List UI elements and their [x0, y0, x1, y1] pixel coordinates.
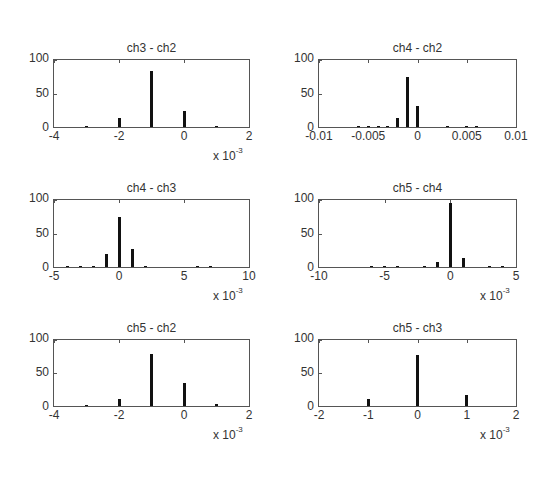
x-tick-mark: [184, 200, 185, 203]
exponent-power: -3: [236, 146, 243, 155]
x-tick-label: -10: [310, 269, 327, 283]
y-tick-mark: [54, 373, 57, 374]
histogram-bar: [406, 77, 409, 127]
x-tick-label: 0.01: [504, 129, 527, 143]
x-tick-label: 0: [181, 129, 188, 143]
x-tick-mark: [516, 340, 517, 343]
histogram-bar: [183, 111, 186, 127]
x-tick-mark: [368, 60, 369, 63]
histogram-bar: [92, 266, 95, 267]
x-tick-label: 0: [447, 269, 454, 283]
exponent-base: x 10: [213, 149, 236, 163]
histogram-bar: [66, 266, 69, 267]
histogram-bar: [85, 405, 88, 406]
x-tick-mark: [119, 200, 120, 203]
y-tick-mark: [54, 234, 57, 235]
y-tick-label: 100: [284, 331, 314, 345]
histogram-bar: [150, 354, 153, 406]
x-tick-label: 10: [242, 269, 255, 283]
histogram-bar: [196, 266, 199, 267]
x-tick-mark: [467, 60, 468, 63]
x-tick-mark: [385, 200, 386, 203]
x-tick-mark: [516, 60, 517, 63]
y-tick-mark: [54, 94, 57, 95]
y-tick-label: 50: [19, 365, 49, 379]
histogram-bar: [423, 266, 426, 267]
x-tick-label: 5: [513, 269, 520, 283]
x-tick-mark: [54, 200, 55, 203]
y-tick-mark: [319, 267, 322, 268]
y-tick-label: 0: [284, 399, 314, 413]
x-axis-exponent: x 10-3: [213, 427, 243, 442]
x-tick-mark: [368, 340, 369, 343]
histogram-bar: [118, 217, 121, 267]
y-tick-label: 100: [284, 191, 314, 205]
y-tick-label: 50: [284, 86, 314, 100]
y-tick-label: 100: [19, 191, 49, 205]
histogram-bar: [465, 126, 468, 127]
x-tick-label: -5: [379, 269, 390, 283]
y-tick-label: 50: [284, 365, 314, 379]
x-tick-label: -1: [363, 408, 374, 422]
y-tick-label: 0: [19, 120, 49, 134]
histogram-bar: [118, 399, 121, 406]
x-tick-label: -4: [49, 408, 60, 422]
histogram-bar: [436, 262, 439, 267]
histogram-bar: [370, 266, 373, 267]
subplot-axes: [318, 339, 517, 407]
subplot-axes: [318, 199, 517, 268]
exponent-base: x 10: [480, 289, 503, 303]
exponent-power: -3: [236, 425, 243, 434]
x-tick-mark: [249, 340, 250, 343]
x-tick-label: 2: [246, 408, 253, 422]
x-tick-label: -5: [49, 269, 60, 283]
y-tick-mark: [319, 406, 322, 407]
x-axis-exponent: x 10-3: [480, 427, 510, 442]
y-tick-mark: [319, 127, 322, 128]
y-tick-mark: [54, 267, 57, 268]
x-axis-exponent: x 10-3: [480, 288, 510, 303]
x-tick-label: -2: [114, 408, 125, 422]
x-tick-mark: [450, 200, 451, 203]
y-tick-mark: [54, 406, 57, 407]
histogram-bar: [209, 266, 212, 267]
x-tick-mark: [54, 340, 55, 343]
histogram-bar: [383, 266, 386, 267]
y-tick-label: 50: [19, 226, 49, 240]
x-tick-label: 5: [181, 269, 188, 283]
histogram-bar: [475, 126, 478, 127]
x-tick-mark: [119, 340, 120, 343]
histogram-bar: [183, 383, 186, 406]
x-tick-mark: [516, 200, 517, 203]
y-tick-label: 0: [19, 399, 49, 413]
histogram-bar: [449, 203, 452, 267]
histogram-bar: [215, 126, 218, 127]
x-tick-label: -2: [314, 408, 325, 422]
x-tick-label: 1: [463, 408, 470, 422]
exponent-power: -3: [236, 286, 243, 295]
subplot-axes: [53, 199, 250, 268]
histogram-bar: [488, 266, 491, 267]
x-tick-label: 0: [116, 269, 123, 283]
histogram-bar: [79, 266, 82, 267]
x-tick-mark: [467, 340, 468, 343]
y-tick-label: 100: [284, 51, 314, 65]
y-tick-mark: [54, 127, 57, 128]
x-tick-label: -2: [114, 129, 125, 143]
x-tick-mark: [319, 340, 320, 343]
histogram-bar: [85, 126, 88, 127]
exponent-power: -3: [503, 425, 510, 434]
subplot-axes: [318, 59, 517, 128]
histogram-bar: [131, 249, 134, 267]
histogram-bar: [105, 254, 108, 267]
subplot-title: ch3 - ch2: [127, 41, 176, 55]
exponent-power: -3: [503, 286, 510, 295]
histogram-bar: [150, 71, 153, 127]
x-tick-mark: [249, 60, 250, 63]
x-tick-mark: [119, 60, 120, 63]
x-tick-label: 0.005: [452, 129, 482, 143]
x-tick-mark: [184, 340, 185, 343]
x-tick-label: -4: [49, 129, 60, 143]
x-axis-exponent: x 10-3: [213, 148, 243, 163]
y-tick-mark: [319, 373, 322, 374]
